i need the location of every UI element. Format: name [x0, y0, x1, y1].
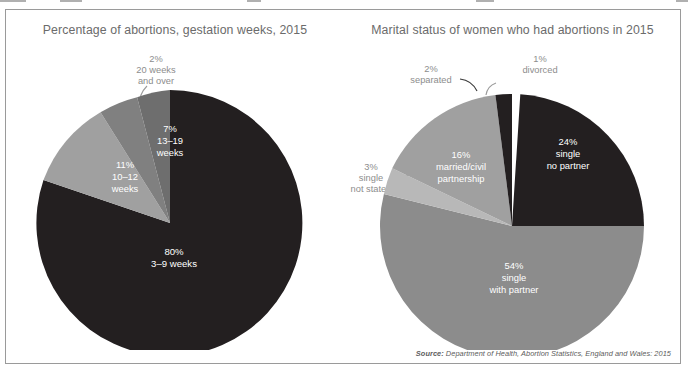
- figure-panel: Percentage of abortions, gestation weeks…: [5, 9, 681, 364]
- svg-text:3–9 weeks: 3–9 weeks: [151, 258, 197, 269]
- svg-text:weeks: weeks: [111, 183, 139, 194]
- svg-text:single: single: [556, 148, 581, 159]
- svg-text:married/civil: married/civil: [436, 161, 486, 172]
- svg-text:single: single: [502, 272, 527, 283]
- svg-text:with partner: with partner: [489, 284, 539, 295]
- leader-line-separated: [460, 79, 477, 91]
- leader-line-divorced: [486, 83, 496, 95]
- svg-text:weeks: weeks: [156, 147, 184, 158]
- source-note: Source: Department of Health, Abortion S…: [416, 349, 671, 358]
- svg-text:partnership: partnership: [438, 173, 485, 184]
- pie-right: 24% single no partner 16% married/civil …: [344, 10, 681, 350]
- svg-text:11%: 11%: [116, 159, 134, 170]
- svg-text:7%: 7%: [163, 123, 177, 134]
- svg-text:16%: 16%: [452, 149, 471, 160]
- source-text: Department of Health, Abortion Statistic…: [446, 349, 671, 358]
- svg-text:80%: 80%: [164, 246, 184, 257]
- pie-left: 80% 3–9 weeks 11% 10–12 weeks 7% 13–19 w…: [6, 10, 344, 350]
- chart-gestation-weeks: Percentage of abortions, gestation weeks…: [6, 10, 344, 363]
- svg-text:24%: 24%: [559, 136, 578, 147]
- svg-text:10–12: 10–12: [112, 171, 138, 182]
- figure-canvas: Percentage of abortions, gestation weeks…: [0, 0, 688, 373]
- svg-text:13–19: 13–19: [157, 135, 183, 146]
- cropped-top-rule: [0, 0, 688, 3]
- svg-text:54%: 54%: [505, 260, 524, 271]
- source-label: Source:: [416, 349, 444, 358]
- chart-marital-status: Marital status of women who had abortion…: [344, 10, 681, 363]
- svg-text:no partner: no partner: [547, 160, 590, 171]
